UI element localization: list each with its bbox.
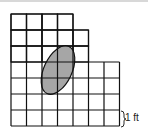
grid-cells: [11, 14, 89, 62]
scale-label: 1 ft: [125, 112, 139, 123]
